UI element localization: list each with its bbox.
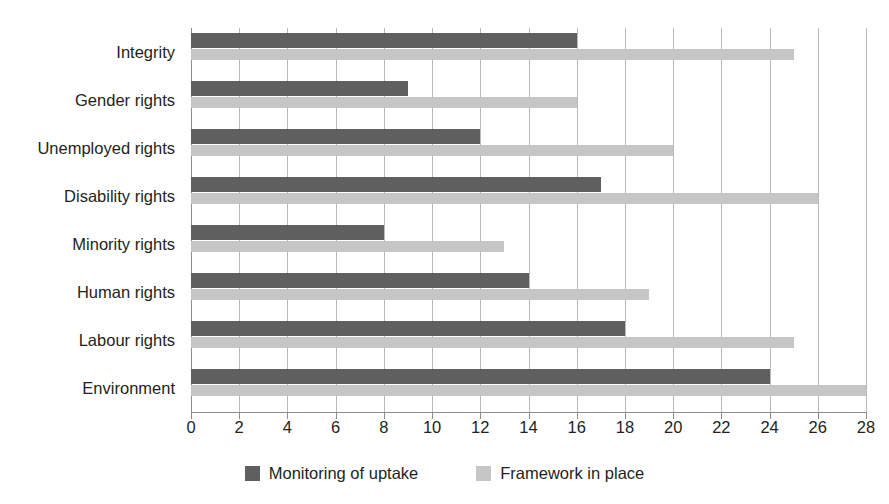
bar-group	[191, 124, 866, 172]
x-tick-label-22: 22	[712, 418, 730, 437]
x-tick-label-8: 8	[379, 418, 388, 437]
x-tick-label-6: 6	[331, 418, 340, 437]
x-tick-label-18: 18	[616, 418, 634, 437]
bar-disability-rights-framework-in-place	[191, 193, 818, 204]
x-tick-label-0: 0	[186, 418, 195, 437]
x-tick-label-10: 10	[423, 418, 441, 437]
category-label-disability-rights: Disability rights	[0, 172, 183, 220]
x-tick-label-4: 4	[283, 418, 292, 437]
bar-unemployed-rights-monitoring-of-uptake	[191, 129, 480, 144]
x-axis-tick-labels: 0246810121416182022242628	[191, 418, 866, 444]
legend-label: Framework in place	[500, 464, 644, 483]
category-label-integrity: Integrity	[0, 28, 183, 76]
legend-item-framework-in-place[interactable]: Framework in place	[476, 464, 644, 483]
bar-group	[191, 268, 866, 316]
plot-area	[191, 28, 866, 412]
bar-integrity-monitoring-of-uptake	[191, 33, 577, 48]
legend-label: Monitoring of uptake	[269, 464, 419, 483]
x-tick-label-2: 2	[235, 418, 244, 437]
category-label-unemployed-rights: Unemployed rights	[0, 124, 183, 172]
x-tick-label-24: 24	[760, 418, 778, 437]
bar-environment-framework-in-place	[191, 385, 866, 396]
legend-item-monitoring-of-uptake[interactable]: Monitoring of uptake	[245, 464, 419, 483]
x-tick-label-26: 26	[809, 418, 827, 437]
category-label-labour-rights: Labour rights	[0, 316, 183, 364]
bar-unemployed-rights-framework-in-place	[191, 145, 673, 156]
category-label-human-rights: Human rights	[0, 268, 183, 316]
bar-chart: IntegrityGender rightsUnemployed rightsD…	[0, 0, 889, 504]
bar-group	[191, 364, 866, 412]
bar-disability-rights-monitoring-of-uptake	[191, 177, 601, 192]
bar-minority-rights-monitoring-of-uptake	[191, 225, 384, 240]
bar-labour-rights-framework-in-place	[191, 337, 794, 348]
bar-gender-rights-framework-in-place	[191, 97, 577, 108]
chart-legend: Monitoring of uptakeFramework in place	[0, 458, 889, 488]
bar-rows	[191, 28, 866, 412]
bar-gender-rights-monitoring-of-uptake	[191, 81, 408, 96]
bar-group	[191, 28, 866, 76]
x-tick-label-12: 12	[471, 418, 489, 437]
bar-group	[191, 316, 866, 364]
bar-human-rights-framework-in-place	[191, 289, 649, 300]
bar-minority-rights-framework-in-place	[191, 241, 504, 252]
gridline-28	[866, 28, 867, 412]
bar-integrity-framework-in-place	[191, 49, 794, 60]
x-tick-label-16: 16	[568, 418, 586, 437]
category-label-minority-rights: Minority rights	[0, 220, 183, 268]
x-tick-label-14: 14	[519, 418, 537, 437]
category-label-gender-rights: Gender rights	[0, 76, 183, 124]
bar-group	[191, 220, 866, 268]
bar-environment-monitoring-of-uptake	[191, 369, 770, 384]
legend-swatch-icon	[476, 466, 491, 481]
bar-human-rights-monitoring-of-uptake	[191, 273, 529, 288]
bar-group	[191, 76, 866, 124]
legend-swatch-icon	[245, 466, 260, 481]
bar-labour-rights-monitoring-of-uptake	[191, 321, 625, 336]
x-tick-label-28: 28	[857, 418, 875, 437]
x-tick-label-20: 20	[664, 418, 682, 437]
category-axis-labels: IntegrityGender rightsUnemployed rightsD…	[0, 28, 183, 412]
category-label-environment: Environment	[0, 364, 183, 412]
bar-group	[191, 172, 866, 220]
